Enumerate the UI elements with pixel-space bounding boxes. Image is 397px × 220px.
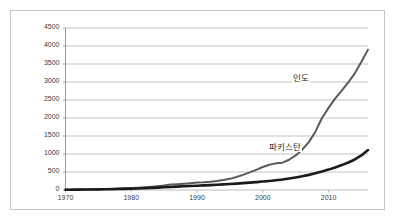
gridlines-group [66,28,369,190]
y-axis-tick-label: 3000 [32,77,60,84]
x-axis-tick-label: 1980 [116,194,146,201]
y-axis-tick-label: 2000 [32,113,60,120]
series-annotation-pakistan: 파키스탄 [268,142,302,152]
y-axis-tick-label: 1500 [32,131,60,138]
y-axis-tick-label: 2500 [32,95,60,102]
x-axis-tick-label: 2000 [248,194,278,201]
y-axis-tick-label: 1000 [32,149,60,156]
y-axis-tick-label: 500 [32,167,60,174]
chart-figure: 050010001500200025003000350040004500 197… [0,0,397,220]
x-axis-tick-label: 2010 [314,194,344,201]
series-line-pakistan [66,150,369,190]
axis-lines-group [63,28,329,193]
x-axis-tick-label: 1990 [182,194,212,201]
y-axis-tick-label: 4500 [32,23,60,30]
y-axis-tick-label: 4000 [32,41,60,48]
series-line-india [66,50,369,190]
series-annotation-india: 인도 [292,73,310,83]
y-axis-tick-label: 0 [32,185,60,192]
x-axis-tick-label: 1970 [51,194,81,201]
y-axis-tick-label: 3500 [32,59,60,66]
series-lines-group [66,50,369,190]
